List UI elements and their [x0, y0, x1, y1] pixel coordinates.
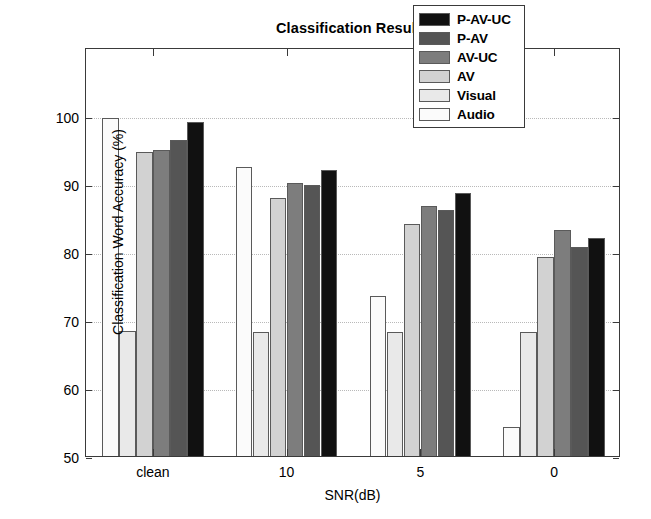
bar-av-10	[270, 198, 287, 456]
y-tick-mark-60	[86, 390, 92, 391]
plot-inner	[86, 49, 619, 456]
legend-item-av-uc[interactable]: AV-UC	[419, 48, 519, 66]
x-tick-mark-top-10	[287, 49, 288, 56]
bar-p-av-10	[304, 185, 321, 456]
legend-swatch-p-av-uc	[419, 13, 450, 26]
chart-figure: Classification Results 5060708090100 cle…	[0, 0, 651, 519]
bar-p-av-uc-10	[321, 170, 338, 456]
x-tick-label-10: 10	[279, 464, 295, 480]
bar-p-av-uc-5	[455, 193, 472, 456]
bar-audio-5	[370, 296, 387, 456]
y-tick-label-50: 50	[63, 450, 79, 466]
y-tick-mark-100	[86, 118, 92, 119]
y-tick-mark-right-90	[613, 186, 619, 187]
legend: P-AV-UCP-AVAV-UCAVVisualAudio	[413, 5, 525, 128]
y-tick-mark-80	[86, 254, 92, 255]
y-tick-mark-right-100	[613, 118, 619, 119]
bar-visual-0	[520, 332, 537, 456]
legend-label-visual: Visual	[457, 88, 496, 103]
bar-audio-0	[503, 427, 520, 456]
bar-av-uc-5	[421, 206, 438, 456]
y-tick-mark-right-50	[613, 458, 619, 459]
legend-swatch-visual	[419, 89, 450, 102]
legend-label-p-av-uc: P-AV-UC	[457, 12, 511, 27]
bar-p-av-5	[438, 210, 455, 456]
x-axis-label: SNR(dB)	[85, 487, 620, 503]
y-tick-mark-50	[86, 458, 92, 459]
x-tick-label-clean: clean	[136, 464, 169, 480]
bar-audio-10	[236, 167, 253, 456]
y-tick-mark-right-70	[613, 322, 619, 323]
bar-av-uc-0	[554, 230, 571, 456]
legend-item-av[interactable]: AV	[419, 67, 519, 85]
gridline-100	[86, 118, 619, 119]
legend-item-audio[interactable]: Audio	[419, 105, 519, 123]
bar-av-clean	[136, 152, 153, 456]
y-tick-mark-right-60	[613, 390, 619, 391]
bar-av-5	[404, 224, 421, 456]
bar-p-av-uc-0	[588, 238, 605, 456]
bar-visual-5	[387, 332, 404, 456]
y-tick-label-80: 80	[63, 246, 79, 262]
bar-av-uc-10	[287, 183, 304, 456]
legend-label-av: AV	[457, 69, 475, 84]
bar-av-uc-clean	[153, 150, 170, 456]
legend-item-p-av[interactable]: P-AV	[419, 29, 519, 47]
legend-swatch-audio	[419, 108, 450, 121]
y-tick-mark-right-80	[613, 254, 619, 255]
chart-title: Classification Results	[85, 20, 620, 36]
legend-label-p-av: P-AV	[457, 31, 488, 46]
x-tick-mark-10	[287, 449, 288, 456]
y-tick-mark-90	[86, 186, 92, 187]
legend-swatch-p-av	[419, 32, 450, 45]
x-tick-mark-clean	[153, 449, 154, 456]
y-axis-label: Classification Word Accuracy (%)	[110, 72, 126, 392]
x-tick-label-0: 0	[550, 464, 558, 480]
bar-p-av-uc-clean	[187, 122, 204, 456]
bar-visual-10	[253, 332, 270, 456]
y-tick-mark-70	[86, 322, 92, 323]
x-tick-mark-top-clean	[153, 49, 154, 56]
legend-swatch-av-uc	[419, 51, 450, 64]
y-tick-label-70: 70	[63, 314, 79, 330]
bar-p-av-clean	[170, 140, 187, 456]
x-tick-mark-top-0	[554, 49, 555, 56]
legend-item-p-av-uc[interactable]: P-AV-UC	[419, 10, 519, 28]
legend-label-audio: Audio	[457, 107, 495, 122]
legend-label-av-uc: AV-UC	[457, 50, 498, 65]
bar-av-0	[537, 257, 554, 456]
x-tick-mark-5	[420, 449, 421, 456]
legend-swatch-av	[419, 70, 450, 83]
bar-p-av-0	[571, 247, 588, 456]
x-tick-mark-0	[554, 449, 555, 456]
y-tick-label-60: 60	[63, 382, 79, 398]
y-tick-label-100: 100	[56, 110, 79, 126]
y-tick-label-90: 90	[63, 178, 79, 194]
plot-area: 5060708090100 clean1050 Classification W…	[85, 48, 620, 457]
x-tick-label-5: 5	[416, 464, 424, 480]
legend-item-visual[interactable]: Visual	[419, 86, 519, 104]
